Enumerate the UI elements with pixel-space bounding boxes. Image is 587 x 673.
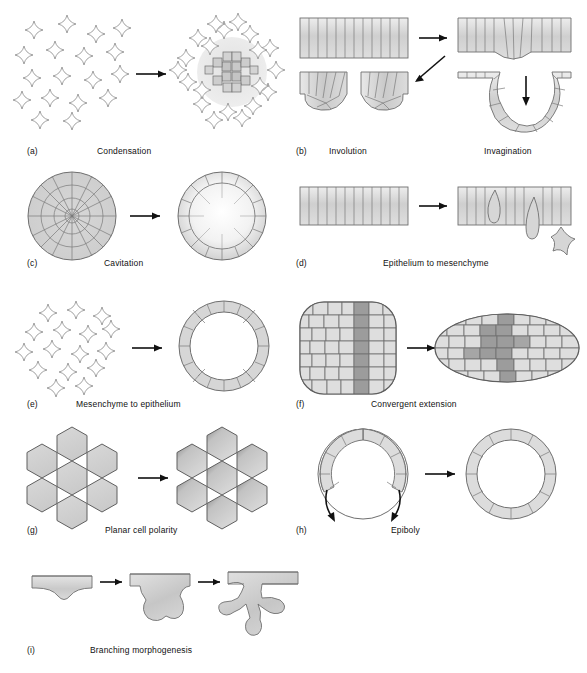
panel-d-letter: (d)	[296, 258, 307, 268]
dispersed-cells-e	[15, 301, 120, 397]
panel-h-letter: (h)	[296, 525, 307, 535]
tissue-square-f	[295, 302, 399, 395]
panel-h-epiboly	[295, 422, 580, 527]
arrow-i-1	[100, 579, 122, 585]
panel-e-label: Mesenchyme to epithelium	[76, 399, 181, 409]
partial-layer-h	[318, 429, 408, 522]
intact-epithelium-d	[300, 187, 408, 225]
dispersed-cells-a	[13, 15, 131, 130]
hollow-cell-ball-c	[178, 172, 266, 260]
panel-b-letter: (b)	[296, 146, 307, 156]
panel-c-letter: (c)	[27, 258, 37, 268]
panel-b-involution	[295, 8, 580, 138]
panel-g-label: Planar cell polarity	[105, 525, 177, 535]
panel-a-label: Condensation	[97, 146, 151, 156]
arrow-h	[425, 470, 455, 477]
polarized-hexagons-g	[177, 427, 267, 529]
invagination-start	[458, 18, 571, 60]
panel-a-letter: (a)	[27, 146, 38, 156]
panel-f-letter: (f)	[296, 399, 304, 409]
arrow-a	[136, 70, 166, 77]
tissue-ellipse-f	[431, 314, 580, 384]
morphogenesis-figure: (a) Condensation	[0, 0, 587, 673]
delaminating-epithelium-d	[458, 187, 575, 255]
flat-epithelium-b	[300, 18, 408, 58]
panel-h-label: Epiboly	[391, 525, 420, 535]
panel-b-label: Involution	[329, 146, 367, 156]
unpolarized-hexagons-g	[27, 427, 117, 529]
panel-a-condensation	[10, 8, 290, 138]
panel-c-label: Cavitation	[104, 258, 143, 268]
branching-stage-1	[32, 576, 92, 600]
arrow-b-right	[419, 34, 447, 41]
arrow-e	[132, 344, 162, 351]
panel-e-met	[10, 296, 290, 396]
panel-i-letter: (i)	[27, 645, 35, 655]
panel-e-letter: (e)	[27, 399, 38, 409]
panel-g-pcp	[10, 422, 290, 522]
branching-stage-3	[219, 572, 298, 635]
arrow-d	[419, 202, 447, 209]
panel-c-cavitation	[10, 168, 290, 268]
panel-b-label2: Invagination	[484, 146, 532, 156]
condensate-cluster-a	[169, 13, 285, 129]
arrow-b-diagonal	[415, 56, 445, 82]
panel-i-label: Branching morphogenesis	[90, 645, 192, 655]
panel-f-label: Convergent extension	[371, 399, 457, 409]
arrow-c	[130, 212, 160, 219]
arrow-f	[407, 344, 435, 351]
arrow-g	[138, 474, 168, 481]
solid-cell-ball-c	[28, 172, 116, 260]
branching-stage-2	[130, 574, 190, 621]
panel-g-letter: (g)	[27, 525, 38, 535]
arrow-i-2	[198, 579, 220, 585]
involution-result	[300, 72, 408, 110]
invagination-deep	[458, 72, 571, 132]
panel-i-branching	[10, 556, 300, 651]
panel-d-emt	[295, 175, 580, 270]
panel-f-convergent-extension	[295, 296, 580, 396]
panel-d-label: Epithelium to mesenchyme	[383, 258, 489, 268]
epithelial-ring-e	[179, 301, 269, 391]
complete-layer-h	[466, 429, 556, 519]
